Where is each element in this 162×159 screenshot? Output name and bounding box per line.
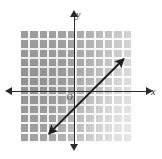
graphed-line [49, 59, 124, 134]
plotted-line-layer [0, 0, 162, 159]
coordinate-plane-figure: · · · ·· · ·· x y O [0, 0, 162, 159]
